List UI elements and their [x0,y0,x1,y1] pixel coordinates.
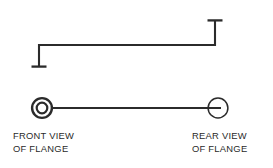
front-view-label-line1: FRONT VIEW [13,130,74,141]
flange-diagram-figure: FRONT VIEW OF FLANGE REAR VIEW OF FLANGE [0,0,273,168]
rear-view-label-line2: OF FLANGE [192,143,247,154]
label-group: FRONT VIEW OF FLANGE REAR VIEW OF FLANGE [13,130,247,154]
technical-drawing-canvas: FRONT VIEW OF FLANGE REAR VIEW OF FLANGE [0,0,273,168]
front-view-label-line2: OF FLANGE [13,143,68,154]
front-flange-inner-circle [37,103,48,114]
lower-flange-axis-group [32,98,228,118]
rear-view-label-line1: REAR VIEW [192,130,247,141]
upper-offset-line-group [32,20,223,67]
front-flange-symbol [32,98,52,118]
